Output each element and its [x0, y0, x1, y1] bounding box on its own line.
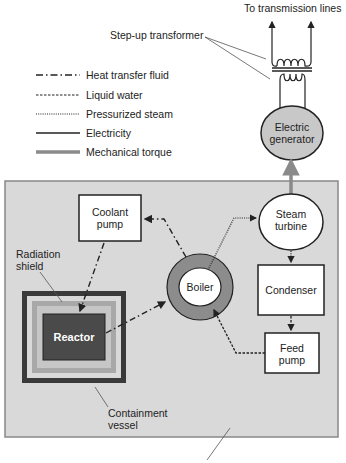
nuclear-plant-diagram: To transmission lines Step-up transforme… [0, 0, 346, 463]
legend: Heat transfer fluid Liquid water Pressur… [36, 69, 173, 158]
svg-text:pump: pump [97, 218, 123, 230]
svg-text:vessel: vessel [108, 419, 138, 431]
svg-text:Mechanical torque: Mechanical torque [86, 146, 172, 158]
svg-text:Heat transfer fluid: Heat transfer fluid [86, 69, 169, 81]
shield-label: Radiation [16, 248, 61, 260]
svg-text:shield: shield [16, 260, 44, 272]
svg-text:Reactor: Reactor [54, 331, 96, 343]
transformer-label: Step-up transformer [110, 29, 204, 41]
containment-label: Containment [108, 407, 168, 419]
svg-text:generator: generator [270, 133, 315, 145]
transmission-label: To transmission lines [244, 2, 341, 14]
svg-text:Feed: Feed [280, 342, 304, 354]
svg-text:Liquid water: Liquid water [86, 89, 143, 101]
svg-text:Condenser: Condenser [265, 284, 317, 296]
svg-text:Electricity: Electricity [86, 127, 132, 139]
svg-text:Pressurized steam: Pressurized steam [86, 108, 173, 120]
svg-text:Steam: Steam [276, 208, 307, 220]
svg-text:turbine: turbine [275, 220, 307, 232]
svg-text:Boiler: Boiler [187, 281, 214, 293]
svg-text:Electric: Electric [275, 121, 309, 133]
svg-text:Coolant: Coolant [92, 206, 128, 218]
step-up-transformer [272, 22, 312, 108]
svg-text:pump: pump [279, 354, 305, 366]
